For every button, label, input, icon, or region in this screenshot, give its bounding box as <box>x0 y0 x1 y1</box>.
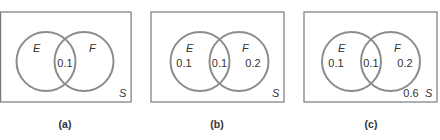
intersection-value: 0.1 <box>363 57 378 69</box>
panel-caption: (b) <box>210 118 223 130</box>
set-e-label: E <box>186 42 194 54</box>
venn-panel-b: E F 0.1 0.1 0.2 S (b) <box>151 12 284 130</box>
set-f-label: F <box>242 42 250 54</box>
panel-caption: (c) <box>365 118 378 130</box>
f-only-value: 0.2 <box>245 57 260 69</box>
venn-panel-c: E F 0.1 0.1 0.2 0.6 S (c) <box>304 12 437 130</box>
venn-panel-a: E F 0.1 S (a) <box>1 12 132 130</box>
panel-caption: (a) <box>59 118 72 130</box>
e-only-value: 0.1 <box>176 57 191 69</box>
universe-label: S <box>119 87 127 99</box>
e-only-value: 0.1 <box>328 57 343 69</box>
universe-label: S <box>425 87 433 99</box>
set-f-label: F <box>89 42 97 54</box>
venn-diagram-figure: E F 0.1 S (a) E F 0.1 0.1 0.2 S (b) E F … <box>0 0 440 140</box>
universe-label: S <box>272 87 280 99</box>
f-only-value: 0.2 <box>397 57 412 69</box>
set-e-label: E <box>338 42 346 54</box>
intersection-value: 0.1 <box>212 57 227 69</box>
set-f-label: F <box>394 42 402 54</box>
outside-value: 0.6 <box>403 87 418 99</box>
intersection-value: 0.1 <box>57 57 72 69</box>
set-e-label: E <box>33 42 41 54</box>
